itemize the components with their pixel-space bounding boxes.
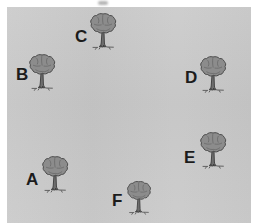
tree-graphic [125,180,153,219]
tree-graphic [198,55,228,97]
tree-label-c: C [75,28,87,45]
tree-a[interactable] [40,155,70,197]
tree-label-b: B [16,66,28,83]
tree-graphic [88,12,118,54]
tree-label-d: D [185,69,197,86]
tree-graphic [40,155,70,197]
tree-c[interactable] [88,12,118,54]
diagram-canvas: A B [7,7,251,223]
tree-b[interactable] [27,53,57,95]
scene-root: A B [0,0,259,223]
tree-graphic [27,53,57,95]
tree-e[interactable] [198,131,228,173]
tree-label-e: E [184,149,195,166]
tree-graphic [198,131,228,173]
tree-label-a: A [26,171,38,188]
tree-f[interactable] [125,180,153,219]
tree-label-f: F [112,192,122,209]
top-smudge-artifact [98,1,108,5]
tree-d[interactable] [198,55,228,97]
